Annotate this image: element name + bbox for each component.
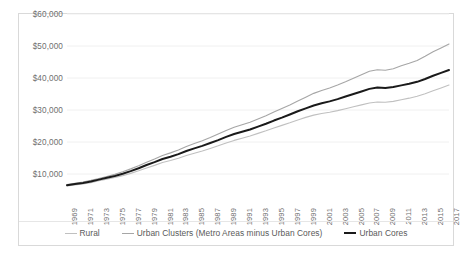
y-tick-label: $40,000 — [33, 74, 63, 83]
legend-item[interactable]: Rural — [65, 228, 100, 238]
chart-legend: RuralUrban Clusters (Metro Areas minus U… — [19, 221, 453, 242]
y-tick-label: $10,000 — [33, 170, 63, 179]
legend-item[interactable]: Urban Clusters (Metro Areas minus Urban … — [122, 228, 323, 238]
y-tick-label: $50,000 — [33, 42, 63, 51]
legend-label: Rural — [80, 228, 100, 238]
legend-swatch-icon — [344, 232, 356, 234]
plot-area — [67, 14, 449, 206]
legend-label: Urban Clusters (Metro Areas minus Urban … — [137, 228, 323, 238]
series-lines — [67, 14, 449, 206]
y-tick-label: $30,000 — [33, 106, 63, 115]
x-tick-label: 2017 — [452, 208, 461, 225]
legend-swatch-icon — [65, 233, 77, 234]
y-tick-label: $20,000 — [33, 138, 63, 147]
legend-label: Urban Cores — [359, 228, 407, 238]
y-tick-label: $60,000 — [33, 10, 63, 19]
y-axis: $10,000$20,000$30,000$40,000$50,000$60,0… — [19, 14, 67, 209]
legend-swatch-icon — [122, 233, 134, 234]
series-line-2 — [67, 70, 449, 185]
chart-card: $10,000$20,000$30,000$40,000$50,000$60,0… — [18, 13, 454, 246]
chart-plot-wrapper: $10,000$20,000$30,000$40,000$50,000$60,0… — [19, 14, 453, 245]
series-line-1 — [67, 44, 449, 184]
legend-item[interactable]: Urban Cores — [344, 228, 407, 238]
